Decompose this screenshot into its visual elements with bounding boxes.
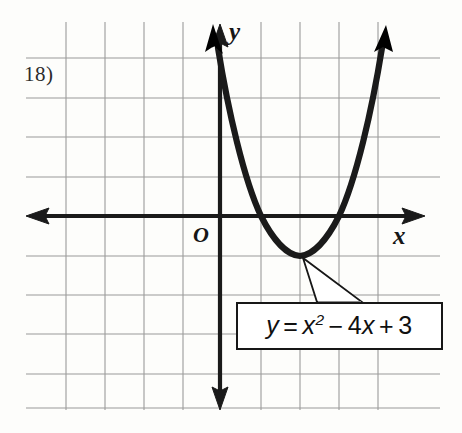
equation-term1-base: x bbox=[302, 312, 315, 340]
y-axis-label: y bbox=[229, 18, 240, 46]
origin-label: O bbox=[193, 222, 209, 248]
equation-operator-1: − bbox=[325, 312, 348, 340]
equation-equals: = bbox=[279, 312, 302, 340]
callout-leader bbox=[303, 258, 362, 303]
parabola-curve bbox=[205, 24, 393, 256]
equation-callout-box: y=x2−4x+3 bbox=[236, 302, 443, 350]
equation-operator-2: + bbox=[375, 312, 398, 340]
x-axis-left-arrow-icon bbox=[26, 208, 49, 224]
y-axis-bottom-arrow-icon bbox=[212, 387, 228, 410]
equation-lhs: y bbox=[266, 312, 279, 340]
equation-term2-variable: x bbox=[362, 312, 375, 340]
problem-number-label: 18) bbox=[24, 62, 54, 87]
equation-text: y=x2−4x+3 bbox=[266, 311, 412, 340]
equation-term2-coefficient: 4 bbox=[348, 312, 362, 340]
graph-figure: 18) y x O y=x2−4x+3 bbox=[0, 0, 462, 433]
equation-term3: 3 bbox=[398, 312, 412, 340]
coordinate-plane-svg bbox=[0, 0, 462, 433]
equation-term1-exponent: 2 bbox=[315, 311, 324, 328]
x-axis-label: x bbox=[393, 222, 406, 250]
